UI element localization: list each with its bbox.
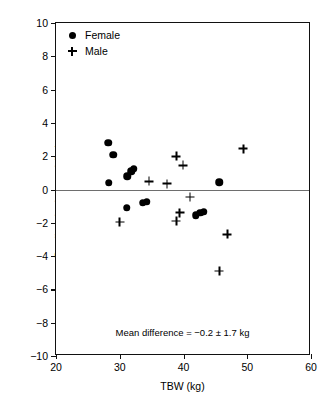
data-point-male bbox=[185, 192, 194, 201]
data-point-female bbox=[105, 139, 113, 147]
data-point-male bbox=[172, 217, 181, 226]
x-tick bbox=[120, 354, 121, 359]
x-axis-label: TBW (kg) bbox=[55, 380, 310, 392]
y-tick-label: −8 bbox=[36, 317, 48, 328]
y-tick bbox=[51, 190, 56, 191]
x-tick bbox=[311, 354, 312, 359]
data-point-male bbox=[172, 152, 181, 161]
y-tick-label: 0 bbox=[42, 184, 48, 195]
data-point-male bbox=[115, 217, 124, 226]
data-point-female bbox=[143, 198, 151, 206]
x-tick-label: 30 bbox=[114, 362, 126, 373]
data-point-female bbox=[215, 178, 223, 186]
zero-reference-line bbox=[56, 190, 309, 191]
y-tick-label: 4 bbox=[42, 118, 48, 129]
x-tick-label: 40 bbox=[178, 362, 190, 373]
y-tick bbox=[51, 223, 56, 224]
legend: Female Male bbox=[64, 27, 120, 59]
legend-label-male: Male bbox=[85, 45, 108, 57]
scatter-plot-figure: Predicted–observed (kg) 1086420−2−4−6−8−… bbox=[0, 0, 334, 402]
plot-area: 1086420−2−4−6−8−10 2030405060 Mean diffe… bbox=[55, 22, 310, 355]
y-tick-label: −4 bbox=[36, 251, 48, 262]
data-point-female bbox=[110, 151, 118, 159]
plus-icon bbox=[64, 47, 80, 56]
legend-entry-female: Female bbox=[64, 27, 120, 43]
x-tick-label: 60 bbox=[305, 362, 317, 373]
y-tick bbox=[51, 156, 56, 157]
y-tick-label: −6 bbox=[36, 284, 48, 295]
y-tick-label: 6 bbox=[42, 84, 48, 95]
data-point-female bbox=[123, 204, 131, 212]
y-tick bbox=[51, 90, 56, 91]
y-tick-label: 10 bbox=[36, 18, 48, 29]
y-tick-label: 2 bbox=[42, 151, 48, 162]
y-tick bbox=[51, 56, 56, 57]
y-tick bbox=[51, 289, 56, 290]
data-point-female bbox=[200, 208, 208, 216]
data-point-male bbox=[178, 161, 187, 170]
mean-difference-annotation: Mean difference = −0.2 ± 1.7 kg bbox=[56, 327, 309, 338]
data-point-female bbox=[130, 165, 138, 173]
y-tick bbox=[51, 123, 56, 124]
legend-label-female: Female bbox=[85, 29, 120, 41]
data-point-male bbox=[145, 177, 154, 186]
y-tick-label: 8 bbox=[42, 51, 48, 62]
legend-entry-male: Male bbox=[64, 43, 120, 59]
filled-circle-icon bbox=[64, 32, 80, 39]
y-tick bbox=[51, 256, 56, 257]
data-point-male bbox=[239, 144, 248, 153]
y-tick-label: −2 bbox=[36, 218, 48, 229]
y-tick bbox=[51, 323, 56, 324]
data-point-male bbox=[215, 267, 224, 276]
x-tick-label: 20 bbox=[50, 362, 62, 373]
y-tick-label: −10 bbox=[30, 351, 48, 362]
data-point-female bbox=[105, 179, 113, 187]
x-tick bbox=[184, 354, 185, 359]
x-tick bbox=[247, 354, 248, 359]
x-tick-label: 50 bbox=[241, 362, 253, 373]
data-point-male bbox=[223, 230, 232, 239]
data-point-male bbox=[162, 179, 171, 188]
x-tick bbox=[56, 354, 57, 359]
y-tick bbox=[51, 23, 56, 24]
